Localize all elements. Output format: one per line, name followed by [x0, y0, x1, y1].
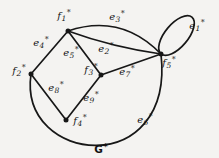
- edge-label-e5: e5*: [63, 46, 79, 60]
- vertex-f3: [99, 73, 104, 78]
- vertex-label-f5: f5*: [162, 56, 175, 70]
- dual-graph-figure: f1* f2* f3* f4* f5* e1* e2* e3* e4* e5* …: [0, 0, 219, 158]
- edge-label-e4: e4*: [33, 36, 49, 50]
- edge-label-e3: e3*: [109, 10, 125, 24]
- vertex-label-f4: f4*: [73, 114, 86, 128]
- edge-label-e1: e1*: [189, 19, 205, 33]
- edge-label-e7: e7*: [119, 65, 135, 79]
- vertex-label-f3: f3*: [84, 63, 97, 77]
- vertex-f2: [29, 72, 34, 77]
- vertex-label-f2: f2*: [12, 64, 25, 78]
- edge-label-e9: e9*: [83, 91, 99, 105]
- figure-caption: G*: [94, 144, 107, 155]
- vertex-label-f1: f1*: [57, 9, 70, 23]
- edge-label-e6: e6*: [137, 113, 153, 127]
- edge-label-e2: e2*: [98, 42, 114, 56]
- vertex-f4: [64, 118, 69, 123]
- edge-label-e8: e8*: [48, 81, 64, 95]
- vertex-f1: [66, 29, 71, 34]
